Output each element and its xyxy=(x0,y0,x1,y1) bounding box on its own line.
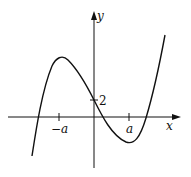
y-axis xyxy=(91,11,97,168)
y-intercept-label: 2 xyxy=(99,94,107,108)
neg-a-label: −a xyxy=(51,122,68,136)
pos-a-label: a xyxy=(126,122,133,136)
x-axis-arrow-icon xyxy=(172,114,181,120)
x-axis-label: x xyxy=(166,119,173,133)
cubic-graph: y x −a a 2 xyxy=(0,0,191,177)
y-axis-label: y xyxy=(96,9,104,23)
